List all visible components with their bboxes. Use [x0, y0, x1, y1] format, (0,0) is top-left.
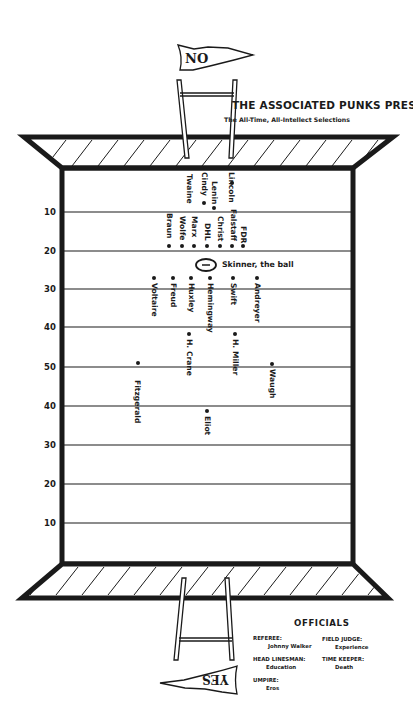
player-h-crane: H. Crane [185, 339, 194, 376]
official-role-referee: REFEREE: [253, 635, 282, 641]
player-dot [218, 244, 222, 248]
player-falstaff: Falstaff [229, 209, 238, 241]
official-name-head-linesman: Education [266, 664, 296, 670]
player-dot [152, 276, 156, 280]
player-dhl: DHL [203, 223, 212, 241]
player-marx: Marx [190, 216, 199, 237]
player-swift: Swift [229, 283, 238, 305]
player-dot [192, 244, 196, 248]
yard-label: 10 [44, 207, 66, 217]
player-dot [167, 244, 171, 248]
header-title: THE ASSOCIATED PUNKS PRESENT [232, 99, 412, 111]
player-wolfe: Wolfe [178, 216, 187, 240]
officials-title: OFFICIALS [294, 618, 349, 628]
player-dot [208, 276, 212, 280]
yard-label: 20 [44, 479, 66, 489]
player-freud: Freud [169, 283, 178, 307]
pennant-yes-label: YES [202, 672, 228, 686]
player-dot [231, 276, 235, 280]
player-andreyer: Andreyer [253, 283, 262, 322]
player-dot [241, 244, 245, 248]
official-name-time-keeper: Death [335, 664, 353, 670]
player-fitzgerald: Fitzgerald [133, 380, 142, 423]
player-dot [180, 244, 184, 248]
yard-label: 30 [44, 440, 66, 450]
player-dot [171, 276, 175, 280]
official-role-time-keeper: TIME KEEPER: [322, 656, 364, 662]
yard-label: 10 [44, 518, 66, 528]
player-lenin: Lenin [210, 181, 219, 204]
player-cindy: Cindy [200, 172, 209, 196]
player-twaine: Twaine [185, 174, 194, 204]
player-fdr: FDR [239, 226, 248, 243]
player-dot [255, 276, 259, 280]
player-braun: Braun [165, 213, 174, 238]
pennant-no-label: NO [185, 51, 208, 66]
player-dot [205, 244, 209, 248]
header-subtitle: The All-Time, All-Intellect Selections [224, 116, 350, 123]
official-role-field-judge: FIELD JUDGE: [322, 636, 362, 642]
player-dot [270, 362, 274, 366]
player-dot [233, 332, 237, 336]
football-icon [196, 259, 216, 271]
player-waugh: Waugh [268, 369, 277, 398]
bottom-endzone [22, 564, 390, 598]
official-name-field-judge: Experience [335, 644, 369, 650]
player-christ: Christ [216, 216, 225, 241]
player-h-miller: H. Miller [231, 339, 240, 375]
player-eliot: Eliot [203, 416, 212, 435]
yard-label: 50 [44, 362, 66, 372]
player-voltaire: Voltaire [150, 283, 159, 317]
ball-label: Skinner, the ball [222, 260, 294, 269]
yard-label: 40 [44, 401, 66, 411]
player-dot [230, 244, 234, 248]
yard-label: 30 [44, 284, 66, 294]
yard-label: 20 [44, 246, 66, 256]
player-lincoln: Lincoln [227, 172, 236, 203]
player-dot [189, 276, 193, 280]
player-hemingway: Hemingway [206, 283, 215, 333]
official-role-umpire: UMPIRE: [253, 677, 279, 683]
player-huxley: Huxley [187, 283, 196, 312]
official-name-referee: Johnny Walker [268, 643, 312, 649]
player-dot [187, 332, 191, 336]
top-endzone [24, 137, 393, 168]
player-dot [136, 361, 140, 365]
yard-label: 40 [44, 322, 66, 332]
player-dot [212, 206, 216, 210]
player-dot [205, 409, 209, 413]
player-dot [202, 201, 206, 205]
official-name-umpire: Eros [266, 685, 279, 691]
official-role-head-linesman: HEAD LINESMAN: [253, 656, 305, 662]
